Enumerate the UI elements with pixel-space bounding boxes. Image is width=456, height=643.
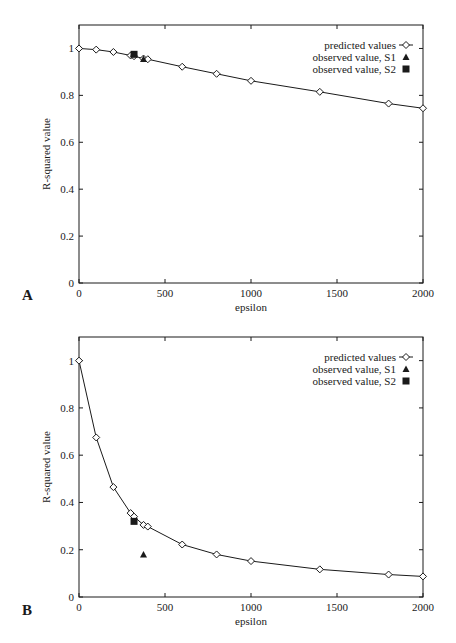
diamond-marker-icon (179, 541, 186, 548)
y-axis-label: R-squared value (40, 431, 52, 503)
diamond-marker-icon (93, 46, 100, 53)
x-tick-label: 1500 (326, 287, 349, 299)
y-tick-label: 0 (69, 277, 75, 289)
chart-panel-b: 050010001500200000.20.40.60.81epsilonR-s… (0, 321, 456, 643)
y-tick-label: 0.2 (60, 230, 74, 242)
panel-label-a: A (22, 287, 33, 304)
triangle-marker-icon (403, 366, 410, 373)
diamond-marker-icon (316, 88, 323, 95)
square-marker-icon (403, 66, 410, 73)
x-tick-label: 1500 (326, 601, 349, 613)
series-predicted-values (76, 357, 427, 580)
y-tick-label: 0.8 (60, 402, 74, 414)
y-tick-label: 0.4 (60, 183, 74, 195)
legend: predicted valuesobserved value, S1observ… (313, 39, 413, 75)
legend-label: observed value, S1 (313, 51, 396, 63)
y-axis-label: R-squared value (40, 118, 52, 190)
y-tick-label: 0.8 (60, 89, 74, 101)
y-tick-label: 0.4 (60, 496, 74, 508)
triangle-marker-icon (140, 551, 147, 558)
figure: 050010001500200000.20.40.60.81epsilonR-s… (0, 0, 456, 643)
diamond-marker-icon (403, 354, 410, 361)
square-marker-icon (131, 518, 138, 525)
legend-label: predicted values (324, 351, 396, 363)
x-tick-label: 0 (76, 601, 82, 613)
x-tick-label: 0 (76, 287, 82, 299)
series-observed-value-s2 (131, 51, 138, 58)
diamond-marker-icon (213, 551, 220, 558)
x-axis-label: epsilon (235, 615, 267, 627)
diamond-marker-icon (316, 566, 323, 573)
diamond-marker-icon (93, 434, 100, 441)
diamond-marker-icon (76, 357, 83, 364)
panel-label-b: B (22, 602, 32, 619)
legend-label: predicted values (324, 39, 396, 51)
y-tick-label: 1 (69, 42, 75, 54)
x-tick-label: 500 (157, 287, 174, 299)
diamond-marker-icon (248, 77, 255, 84)
x-tick-label: 2000 (412, 287, 435, 299)
x-axis-label: epsilon (235, 301, 267, 313)
square-marker-icon (403, 378, 410, 385)
x-tick-label: 1000 (240, 601, 263, 613)
y-tick-label: 0 (69, 591, 75, 603)
x-tick-label: 500 (157, 601, 174, 613)
legend-label: observed value, S1 (313, 363, 396, 375)
diamond-marker-icon (110, 484, 117, 491)
diamond-marker-icon (110, 48, 117, 55)
y-tick-label: 1 (69, 355, 75, 367)
triangle-marker-icon (403, 54, 410, 61)
y-tick-label: 0.6 (60, 449, 74, 461)
legend-label: observed value, S2 (313, 375, 396, 387)
series-observed-value-s2 (131, 518, 138, 525)
square-marker-icon (131, 51, 138, 58)
diamond-marker-icon (76, 45, 83, 52)
diamond-marker-icon (385, 100, 392, 107)
chart-panel-a: 050010001500200000.20.40.60.81epsilonR-s… (0, 0, 456, 321)
diamond-marker-icon (403, 42, 410, 49)
y-tick-label: 0.2 (60, 544, 74, 556)
diamond-marker-icon (213, 70, 220, 77)
diamond-marker-icon (420, 573, 427, 580)
diamond-marker-icon (179, 63, 186, 70)
legend-label: observed value, S2 (313, 63, 396, 75)
legend: predicted valuesobserved value, S1observ… (313, 351, 413, 387)
x-tick-label: 1000 (240, 287, 263, 299)
y-tick-label: 0.6 (60, 136, 74, 148)
diamond-marker-icon (248, 558, 255, 565)
diamond-marker-icon (420, 105, 427, 112)
x-tick-label: 2000 (412, 601, 435, 613)
series-observed-value-s1 (140, 551, 147, 558)
series-line (79, 361, 423, 577)
diamond-marker-icon (385, 571, 392, 578)
